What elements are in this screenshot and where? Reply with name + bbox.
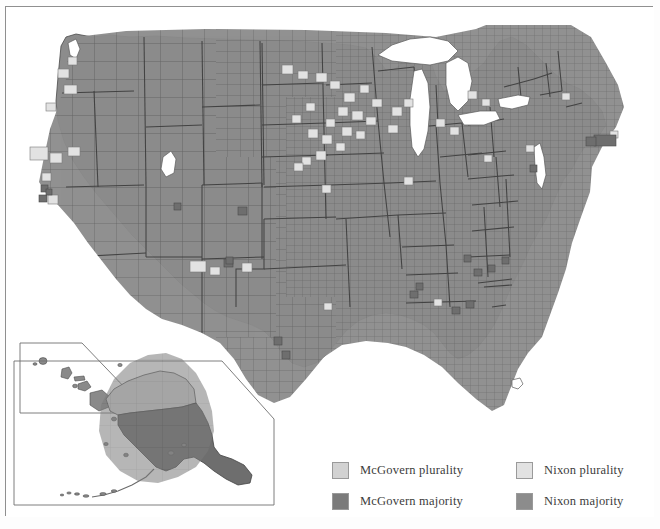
county-patch [352,111,363,120]
county-patch [190,261,206,272]
county-patch [372,99,382,107]
county-patch [366,117,376,125]
county-patch [502,257,509,264]
county-patch [484,155,492,162]
county-patch [50,153,62,163]
island-lanai [73,384,78,388]
county-patch [39,195,47,202]
county-patch [356,131,365,139]
legend-label-mcgovern-plurality: McGovern plurality [360,463,463,478]
legend-swatch-mcgovern-majority [332,493,349,510]
legend-swatch-nixon-majority [516,493,533,510]
island-molokai [74,376,85,381]
us-county-map [6,7,654,517]
county-patch [416,283,423,290]
legend-swatch-nixon-plurality [516,462,533,479]
county-patch [238,207,247,215]
county-patch [322,185,331,193]
county-patch [68,57,77,65]
county-patch [338,107,348,116]
county-patch [404,99,413,107]
county-patch [282,351,290,359]
county-patch [46,103,56,111]
county-patch [562,93,570,100]
county-patch [468,91,477,99]
county-patch [316,73,327,82]
map-legend: McGovern plurality McGovern majority Nix… [326,455,646,517]
county-patch [322,135,332,144]
county-patch [302,157,311,165]
county-patch [404,177,413,185]
map-frame: McGovern plurality McGovern majority Nix… [5,6,653,516]
county-patch [594,135,616,146]
county-patch [30,147,48,160]
county-patch [242,263,252,272]
county-patch [48,195,58,204]
county-patch [526,145,534,152]
legend-swatch-mcgovern-plurality [332,462,349,479]
county-patch [298,71,308,79]
legend-column-mcgovern: McGovern plurality McGovern majority [332,455,492,517]
legend-item-mcgovern-plurality[interactable]: McGovern plurality [332,455,492,486]
county-mesh-southwest [156,157,276,337]
county-patch [482,99,490,106]
map-page: McGovern plurality McGovern majority Nix… [0,0,660,529]
county-patch [46,189,52,195]
county-patch [58,69,69,78]
county-patch [586,137,596,146]
county-patch [388,125,398,133]
county-patch [466,301,474,308]
county-patch [306,103,315,111]
county-patch [174,203,181,210]
county-patch [274,337,282,345]
legend-label-nixon-plurality: Nixon plurality [544,463,624,478]
county-patch [292,115,301,123]
county-patch [294,163,303,171]
legend-item-nixon-majority[interactable]: Nixon majority [516,486,660,517]
county-patch [530,165,537,172]
county-patch [452,307,460,314]
county-patch [330,81,340,89]
county-patch [282,65,293,74]
county-patch [464,255,471,262]
county-patch [324,303,332,310]
legend-label-mcgovern-majority: McGovern majority [360,494,463,509]
county-patch [326,119,335,127]
county-patch [336,143,345,151]
legend-item-nixon-plurality[interactable]: Nixon plurality [516,455,660,486]
county-patch [344,93,355,102]
county-patch [392,107,402,116]
county-patch [226,257,233,264]
county-patch [342,127,352,136]
county-patch [488,265,495,272]
county-patch [436,119,445,127]
county-patch [308,129,318,138]
county-patch [450,127,459,135]
county-patch [434,299,442,306]
county-patch [316,151,326,160]
legend-label-nixon-majority: Nixon majority [544,494,624,509]
map-canvas [6,7,654,517]
county-patch [360,85,369,93]
legend-item-mcgovern-majority[interactable]: McGovern majority [332,486,492,517]
county-patch [42,173,51,181]
county-patch [68,147,80,156]
county-patch [474,269,482,276]
county-patch [210,267,220,275]
county-patch [64,85,77,94]
island-niihau [33,363,37,366]
county-patch [410,291,418,298]
legend-column-nixon: Nixon plurality Nixon majority [516,455,660,517]
